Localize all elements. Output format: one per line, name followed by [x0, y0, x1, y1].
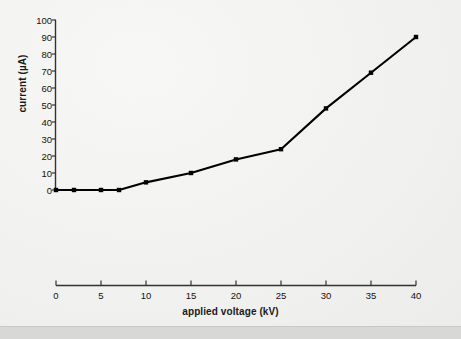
- chart-canvas: [0, 0, 461, 326]
- data-point-markers: [54, 35, 418, 192]
- data-line-current: [56, 37, 416, 190]
- line-chart: current (µA) applied voltage (kV) 100 90…: [0, 0, 461, 326]
- x-axis-ticks: [56, 281, 416, 286]
- page-footer-band: [0, 326, 461, 339]
